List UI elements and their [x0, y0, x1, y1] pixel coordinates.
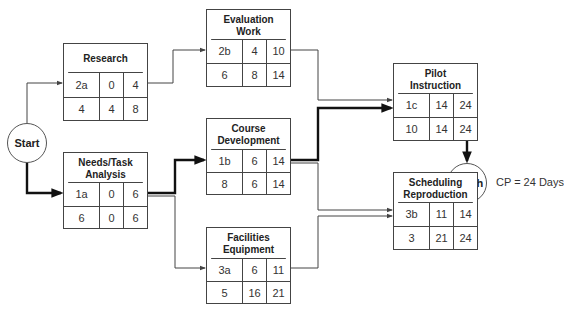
late-start: 14 — [430, 117, 454, 141]
early-start: 0 — [100, 72, 124, 97]
duration: 8 — [207, 172, 243, 195]
activity-id: 2b — [207, 39, 243, 63]
early-start: 11 — [430, 202, 454, 226]
late-start: 8 — [243, 63, 267, 87]
duration: 3 — [394, 226, 430, 250]
early-finish: 14 — [454, 202, 477, 226]
edge-start-research — [27, 83, 62, 123]
edge-start-needs — [27, 163, 61, 193]
activity-id: 3a — [207, 258, 243, 281]
activity-id: 1a — [64, 182, 100, 206]
early-finish: 4 — [124, 72, 147, 97]
activity-id: 3b — [394, 202, 430, 226]
late-finish: 6 — [124, 206, 147, 229]
activity-id: 1b — [207, 149, 243, 172]
duration: 5 — [207, 281, 243, 304]
node-pilot-instruction: Pilot Instruction 1c 14 24 10 14 24 — [393, 63, 478, 141]
duration: 6 — [64, 206, 100, 229]
start-label: Start — [14, 137, 39, 149]
late-finish: 14 — [267, 63, 290, 87]
duration: 10 — [394, 117, 430, 141]
edge-facilities-scheduling — [290, 216, 392, 268]
edge-needs-course — [147, 160, 204, 193]
late-start: 0 — [100, 206, 124, 229]
early-start: 14 — [430, 93, 454, 117]
edge-evaluation-pilot — [290, 50, 392, 100]
start-node: Start — [7, 123, 47, 163]
node-title: Course Development — [211, 119, 286, 150]
node-scheduling-reproduction: Scheduling Reproduction 3b 11 14 3 21 24 — [393, 172, 478, 250]
early-finish: 6 — [124, 182, 147, 206]
node-title: Scheduling Reproduction — [398, 173, 473, 203]
edge-needs-facilities — [147, 196, 205, 268]
late-start: 4 — [100, 97, 124, 121]
node-research: Research 2a 0 4 4 4 8 — [63, 43, 148, 121]
duration: 4 — [64, 97, 100, 121]
late-start: 16 — [243, 281, 267, 304]
node-title: Needs/Task Analysis — [68, 153, 143, 183]
node-title: Research — [68, 44, 143, 73]
late-finish: 21 — [267, 281, 290, 304]
node-course-development: Course Development 1b 6 14 8 6 14 — [206, 118, 291, 195]
node-needs-task-analysis: Needs/Task Analysis 1a 0 6 6 0 6 — [63, 152, 148, 229]
early-start: 6 — [243, 149, 267, 172]
critical-path-note: CP = 24 Days — [496, 176, 564, 188]
edge-course-scheduling — [290, 163, 392, 210]
early-finish: 24 — [454, 93, 477, 117]
node-title: Pilot Instruction — [398, 64, 473, 94]
activity-id: 1c — [394, 93, 430, 117]
early-finish: 14 — [267, 149, 290, 172]
early-start: 4 — [243, 39, 267, 63]
node-title: Facilities Equipment — [211, 228, 286, 259]
late-start: 6 — [243, 172, 267, 195]
node-evaluation-work: Evaluation Work 2b 4 10 6 8 14 — [206, 9, 291, 87]
late-finish: 24 — [454, 226, 477, 250]
activity-id: 2a — [64, 72, 100, 97]
node-facilities-equipment: Facilities Equipment 3a 6 11 5 16 21 — [206, 227, 291, 304]
early-start: 6 — [243, 258, 267, 281]
late-finish: 24 — [454, 117, 477, 141]
duration: 6 — [207, 63, 243, 87]
early-finish: 10 — [267, 39, 290, 63]
node-title: Evaluation Work — [211, 10, 286, 40]
edge-research-evaluation — [147, 50, 205, 83]
late-finish: 8 — [124, 97, 147, 121]
late-finish: 14 — [267, 172, 290, 195]
late-start: 21 — [430, 226, 454, 250]
early-finish: 11 — [267, 258, 290, 281]
early-start: 0 — [100, 182, 124, 206]
edge-course-pilot — [290, 108, 391, 160]
